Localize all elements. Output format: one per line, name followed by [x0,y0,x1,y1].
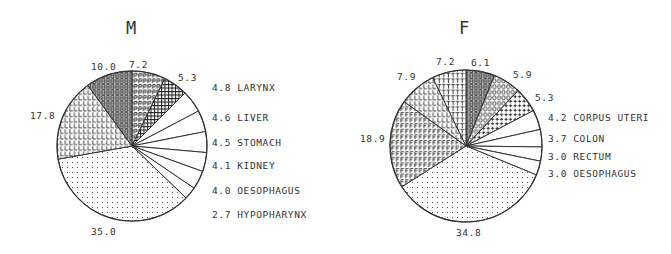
slice-label: 4.1 KIDNEY [212,160,275,171]
pie-chart-male: M7.25.34.8 LARYNX4.6 LIVER4.5 STOMACH4.1… [30,18,307,237]
slice-label: 4.6 LIVER [212,112,269,123]
chart-title-female: F [459,18,469,38]
slice-label: 10.0 [91,61,116,72]
slice-label: 5.3 [535,92,554,103]
slice-label: 5.3 [178,72,197,83]
slice-label: 7.2 [436,56,455,67]
slice-label: 4.2 CORPUS UTERI [548,112,649,123]
slice-label: 3.0 OESOPHAGUS [548,168,636,179]
pie-chart-female: F6.15.95.34.2 CORPUS UTERI3.7 COLON3.0 R… [360,18,649,238]
slice-label: 7.9 [397,71,416,82]
slice-label: 3.0 RECTUM [548,151,611,162]
slice-label: 2.7 HYPOPHARYNX [212,209,307,220]
slice-label: 7.2 [129,59,148,70]
slice-label: 17.8 [30,110,55,121]
slice-label: 5.9 [513,69,532,80]
slice-label: 3.7 COLON [548,133,605,144]
slice-label: 4.8 LARYNX [212,82,275,93]
slice-label: 35.0 [91,226,116,237]
slice-label: 4.5 STOMACH [212,137,282,148]
slice-label: 4.0 OESOPHAGUS [212,185,300,196]
slice-label: 6.1 [471,57,490,68]
slice-label: 34.8 [456,227,481,238]
pie-charts-figure: M7.25.34.8 LARYNX4.6 LIVER4.5 STOMACH4.1… [0,0,671,254]
slice-label: 18.9 [360,133,385,144]
chart-title-male: M [126,18,136,38]
